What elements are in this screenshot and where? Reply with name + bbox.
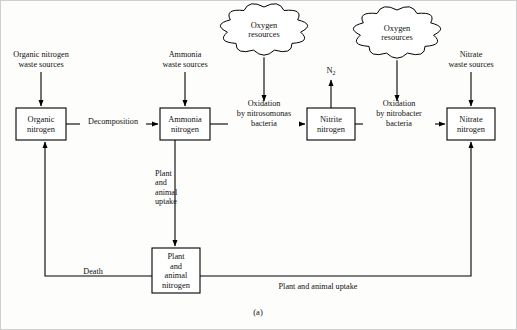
box-nitrite: Nitritenitrogen (307, 108, 355, 140)
box-organic-label: Organicnitrogen (27, 115, 56, 133)
box-nitrate: Nitratenitrogen (447, 108, 495, 140)
line-plant-death-to-organic (45, 142, 152, 276)
flow-label-nitrosomonas: Oxidationby nitrosomonasbacteria (237, 99, 291, 127)
line-plant-uptake-to-nitrate (200, 142, 471, 276)
figure-caption: (a) (253, 307, 263, 317)
box-group: OrganicnitrogenAmmonianitrogenNitritenit… (16, 108, 495, 293)
source-label-nitrate-waste: Nitratewaste sources (448, 50, 493, 69)
box-nitrite-label: Nitritenitrogen (317, 115, 346, 133)
cloud-oxygen-1: Oxygenresources (220, 4, 307, 55)
connector-group (41, 57, 471, 276)
figure-canvas: OxygenresourcesOxygenresources Organicni… (0, 0, 517, 330)
flow-label-nitrobacter: Oxidationby nitrobacterbacteria (376, 99, 422, 127)
box-ammonia-label: Ammonianitrogen (168, 115, 202, 133)
cloud-group: OxygenresourcesOxygenresources (220, 4, 440, 58)
nitrogen-cycle-diagram: OxygenresourcesOxygenresources Organicni… (0, 0, 517, 330)
cloud-oxygen-1-label: Oxygenresources (248, 21, 280, 39)
cloud-oxygen-2: Oxygenresources (353, 7, 440, 58)
source-label-organic-waste: Organic nitrogenwaste sources (13, 50, 69, 69)
box-nitrate-label: Nitratenitrogen (457, 115, 486, 133)
cloud-oxygen-2-label: Oxygenresources (381, 24, 413, 42)
flow-label-uptake-horiz: Plant and animal uptake (279, 282, 358, 291)
label-group: Organic nitrogenwaste sourcesAmmoniawast… (13, 50, 493, 317)
box-organic: Organicnitrogen (16, 108, 66, 140)
output-label-n2: N2 (326, 66, 335, 76)
flow-label-death: Death (83, 267, 103, 276)
box-ammonia: Ammonianitrogen (160, 108, 210, 140)
source-label-ammonia-waste: Ammoniawaste sources (162, 50, 207, 69)
flow-label-decomposition: Decomposition (88, 117, 138, 126)
box-plant: Plantandanimalnitrogen (152, 248, 200, 293)
